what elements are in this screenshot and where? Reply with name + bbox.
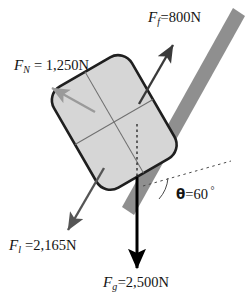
free-body-diagram: FN = 1,250N Ff=800N Fl =2,165N Fg=2,500N… xyxy=(0,0,248,305)
theta-symbol: θ xyxy=(176,186,185,202)
friction-force-symbol: F xyxy=(148,9,157,25)
diagram-canvas xyxy=(0,0,248,305)
gravity-force-value: 2,500N xyxy=(126,274,169,290)
incline-parallel-force-symbol: F xyxy=(9,237,18,253)
incline-parallel-force-value: 2,165N xyxy=(33,237,76,253)
incline-parallel-force-arrow xyxy=(68,168,104,230)
gravity-force-symbol: F xyxy=(103,274,112,290)
angle-label: θ=60° xyxy=(176,186,214,202)
degree-symbol: ° xyxy=(208,185,215,196)
incline-parallel-force-equals: = xyxy=(21,237,33,253)
angle-value: 60 xyxy=(193,186,208,202)
gravity-force-label: Fg=2,500N xyxy=(103,275,169,292)
normal-force-symbol: F xyxy=(14,57,23,73)
normal-force-label: FN = 1,250N xyxy=(14,58,89,75)
friction-force-equals: = xyxy=(160,9,168,25)
normal-force-equals: = xyxy=(30,57,45,73)
incline-parallel-force-label: Fl =2,165N xyxy=(9,238,76,255)
friction-force-arrow xyxy=(139,45,173,104)
friction-force-label: Ff=800N xyxy=(148,10,201,27)
friction-force-value: 800N xyxy=(169,9,201,25)
normal-force-value: 1,250N xyxy=(46,57,89,73)
gravity-force-equals: = xyxy=(118,274,126,290)
